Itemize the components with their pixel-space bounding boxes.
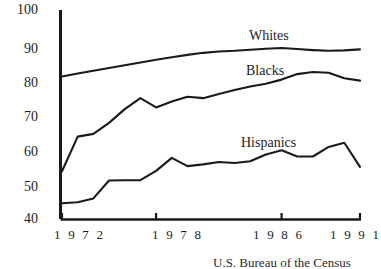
y-tick-label-50: 50 (2, 180, 38, 194)
series-label-whites: Whites (249, 29, 289, 43)
y-tick-label-60: 60 (2, 145, 38, 159)
y-tick-label-70: 70 (2, 110, 38, 124)
series-line-hispanics (62, 143, 360, 203)
series-label-hispanics: Hispanics (241, 136, 296, 150)
y-tick-label-80: 80 (2, 76, 38, 90)
series-label-blacks: Blacks (246, 64, 284, 78)
series-line-blacks (62, 72, 360, 171)
y-tick-label-100: 100 (2, 3, 38, 17)
x-tick-label-1991: 1 9 9 1 (330, 228, 381, 241)
x-tick-label-1972: 1 9 7 2 (54, 228, 105, 241)
source-caption: U.S. Bureau of the Census (213, 256, 351, 269)
y-tick-label-40: 40 (2, 212, 38, 226)
x-tick-label-1978: 1 9 7 8 (152, 228, 203, 241)
y-tick-label-90: 90 (2, 42, 38, 56)
x-tick-label-1986: 1 9 8 6 (253, 228, 304, 241)
x-axis-ticks (62, 213, 360, 219)
